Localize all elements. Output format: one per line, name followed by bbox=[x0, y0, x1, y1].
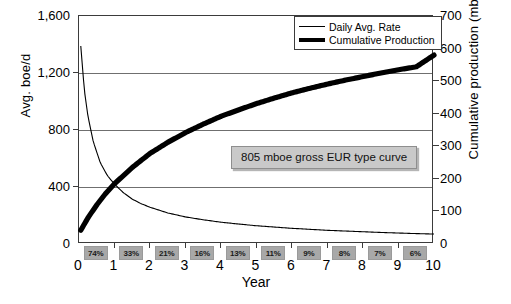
y-axis-left-tick-0: 0 bbox=[8, 243, 70, 258]
y-axis-right-tick-600: 600 bbox=[440, 48, 486, 63]
x-axis-title: Year bbox=[78, 274, 434, 290]
legend: Daily Avg. Rate Cumulative Production bbox=[294, 16, 442, 50]
legend-line-swatch-thick-icon bbox=[299, 38, 325, 42]
y-axis-right-tick-400: 400 bbox=[440, 113, 486, 128]
x-axis-tick-8: 8 bbox=[347, 257, 377, 273]
x-axis-tick-5: 5 bbox=[241, 257, 271, 273]
x-axis-tickmark bbox=[149, 243, 150, 248]
legend-label-cumulative-production: Cumulative Production bbox=[329, 34, 435, 46]
y-axis-left-tick-800: 800 bbox=[8, 129, 70, 144]
chart-figure: Avg. boe/d Cumulative production (mboe) … bbox=[0, 0, 511, 304]
y-axis-left-tick-1200: 1,200 bbox=[8, 72, 70, 87]
x-axis-tick-6: 6 bbox=[276, 257, 306, 273]
x-axis-tickmark bbox=[291, 243, 292, 248]
y-axis-left-tick-400: 400 bbox=[8, 186, 70, 201]
x-axis-tick-9: 9 bbox=[383, 257, 413, 273]
x-axis-tickmark bbox=[327, 243, 328, 248]
x-axis-tick-7: 7 bbox=[312, 257, 342, 273]
x-axis-tick-1: 1 bbox=[99, 257, 129, 273]
series-curves bbox=[79, 16, 434, 244]
y-axis-right-tick-300: 300 bbox=[440, 145, 486, 160]
series-line-cumulative-production bbox=[81, 55, 434, 230]
x-axis-tickmark bbox=[220, 243, 221, 248]
legend-item-cumulative-production: Cumulative Production bbox=[299, 33, 435, 46]
x-axis-tick-2: 2 bbox=[134, 257, 164, 273]
x-axis-tick-0: 0 bbox=[63, 257, 93, 273]
legend-item-daily-avg-rate: Daily Avg. Rate bbox=[299, 20, 435, 33]
legend-label-daily-avg-rate: Daily Avg. Rate bbox=[329, 21, 401, 33]
x-axis-tickmark bbox=[362, 243, 363, 248]
y-axis-right-tick-100: 100 bbox=[440, 210, 486, 225]
x-axis-tickmark bbox=[398, 243, 399, 248]
annotation-eur-type-curve: 805 mboe gross EUR type curve bbox=[231, 146, 417, 169]
legend-line-swatch-thin-icon bbox=[299, 26, 325, 27]
y-axis-right-tick-0: 0 bbox=[440, 243, 486, 258]
y-axis-right-tick-500: 500 bbox=[440, 80, 486, 95]
x-axis-tickmark bbox=[185, 243, 186, 248]
y-axis-right-tick-200: 200 bbox=[440, 178, 486, 193]
x-axis-tick-4: 4 bbox=[205, 257, 235, 273]
x-axis-tickmark bbox=[256, 243, 257, 248]
y-axis-left-tick-1600: 1,600 bbox=[8, 15, 70, 30]
y-axis-right-tick-700: 700 bbox=[440, 15, 486, 30]
x-axis-tick-3: 3 bbox=[170, 257, 200, 273]
x-axis-tickmark bbox=[114, 243, 115, 248]
x-axis-tick-10: 10 bbox=[418, 257, 448, 273]
